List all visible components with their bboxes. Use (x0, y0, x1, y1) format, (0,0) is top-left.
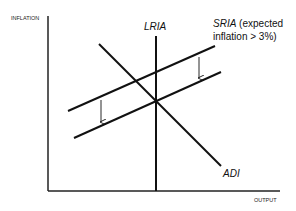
sria-label-line2: inflation > 3%) (213, 31, 277, 42)
sria-upper-line (68, 46, 215, 111)
adi-line (99, 44, 221, 166)
adi-label: ADI (222, 168, 240, 179)
sria-label-italic: SRIA (213, 18, 237, 29)
lria-label: LRIA (144, 21, 167, 32)
y-axis-label: INFLATION (11, 15, 39, 21)
inflation-output-diagram: INFLATION OUTPUT LRIA ADI SRIA (expected… (0, 0, 296, 211)
sria-lower-line (74, 72, 221, 138)
sria-label-rest: (expected (236, 18, 283, 29)
x-axis-label: OUTPUT (254, 197, 277, 203)
sria-label-line1: SRIA (expected (213, 18, 283, 29)
